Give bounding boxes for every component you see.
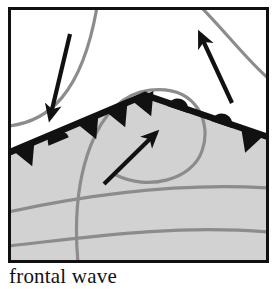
frontal-wave-figure [0,0,277,289]
frontal-wave-diagram [0,0,277,289]
figure-caption: frontal wave [9,266,117,287]
